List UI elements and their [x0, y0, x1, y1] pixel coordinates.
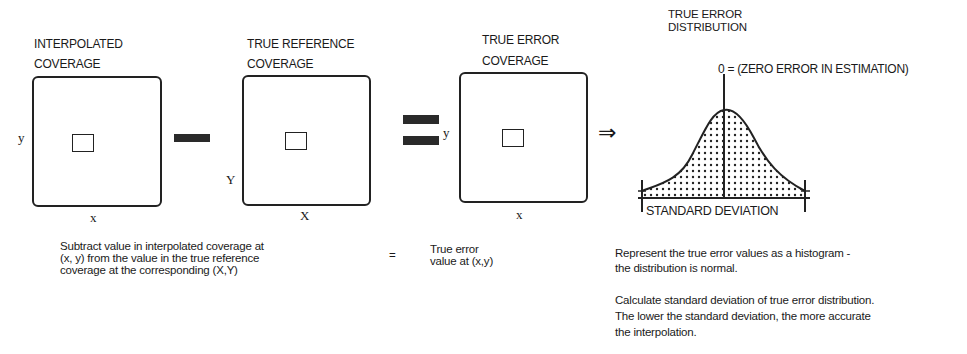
interpolated-coverage-title-1: INTERPOLATED: [34, 34, 123, 54]
error-cell: [502, 129, 524, 147]
minus-operator: [174, 134, 210, 142]
subtract-text-1: Subtract value in interpolated coverage …: [60, 240, 264, 252]
reference-axis-y: Y: [226, 172, 235, 188]
interpolated-axis-x: x: [90, 210, 97, 226]
equals-operator-bottom: [403, 136, 439, 145]
reference-coverage-title-1: TRUE REFERENCE: [247, 34, 354, 54]
error-coverage-title-1: TRUE ERROR: [482, 30, 559, 50]
equals-sign: =: [389, 249, 396, 261]
distribution-title: TRUE ERROR DISTRIBUTION: [668, 8, 747, 34]
result-text-1: True error: [430, 243, 479, 255]
subtract-text-2: (x, y) from the value in the true refere…: [60, 252, 259, 264]
stddev-text-1: Calculate standard deviation of true err…: [615, 293, 874, 308]
error-coverage-box: [459, 72, 588, 203]
standard-deviation-label: STANDARD DEVIATION: [646, 204, 778, 218]
histogram-text-1: Represent the true error values as a his…: [615, 246, 850, 261]
reference-axis-x: X: [300, 208, 309, 224]
error-coverage-title-2: COVERAGE: [482, 51, 548, 71]
result-text-2: value at (x,y): [430, 255, 493, 267]
subtract-text-3: coverage at the corresponding (X,Y): [60, 264, 238, 276]
interpolated-coverage-box: [32, 76, 162, 207]
reference-coverage-box: [242, 75, 371, 206]
error-axis-y: y: [443, 125, 450, 141]
reference-cell: [285, 132, 307, 150]
stddev-text-2: The lower the standard deviation, the mo…: [615, 309, 871, 324]
histogram-text-2: the distribution is normal.: [615, 261, 737, 276]
reference-coverage-title-2: COVERAGE: [247, 54, 313, 74]
distribution-title-1: TRUE ERROR: [668, 8, 747, 21]
normal-distribution-curve-icon: [630, 60, 820, 220]
interpolated-axis-y: y: [18, 130, 25, 146]
equals-operator-top: [403, 115, 439, 124]
implies-arrow-icon: ⇒: [598, 120, 616, 145]
stddev-text-3: the interpolation.: [615, 325, 696, 340]
interpolated-coverage-title-2: COVERAGE: [34, 54, 100, 74]
interpolated-cell: [72, 134, 94, 152]
distribution-title-2: DISTRIBUTION: [668, 21, 747, 34]
error-axis-x: x: [516, 207, 523, 223]
